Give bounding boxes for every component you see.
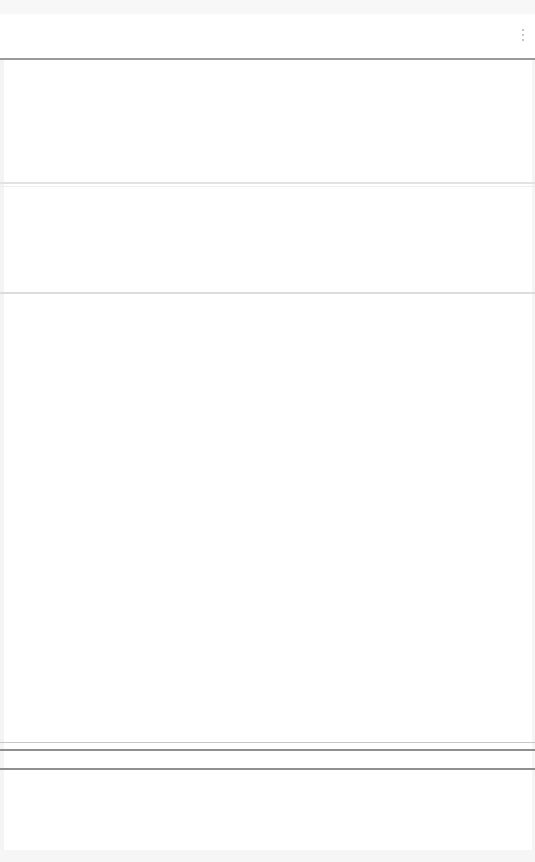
section-divider-top-secondary <box>0 186 535 187</box>
header-divider <box>0 58 535 60</box>
section-divider-bottom <box>0 292 535 294</box>
app-header <box>0 0 535 58</box>
bottom-bar <box>0 770 535 862</box>
kebab-vertical-icon <box>522 29 524 31</box>
main-content-empty <box>0 296 535 740</box>
more-options-button[interactable] <box>521 29 525 41</box>
kebab-dot <box>522 34 524 36</box>
bottom-strip <box>0 850 535 862</box>
kebab-dot <box>522 39 524 41</box>
section-divider-top <box>0 182 535 184</box>
footer-divider-light <box>0 742 535 743</box>
footer-divider-top <box>0 749 535 751</box>
